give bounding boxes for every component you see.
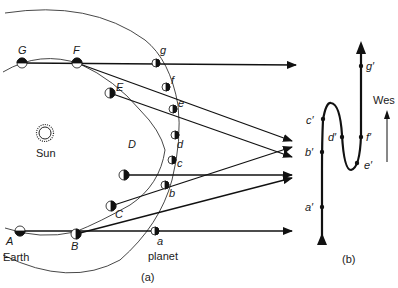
sun-label: Sun <box>36 147 56 159</box>
planet-label-e: e <box>178 97 184 109</box>
earth-label-C: C <box>115 208 123 220</box>
west-arrow-head-icon <box>384 110 390 119</box>
apparent-path <box>322 52 361 240</box>
planet-label-b: b <box>169 187 175 199</box>
earth-label-G: G <box>18 44 27 56</box>
projected-label-b: b′ <box>305 146 314 158</box>
planet-label: planet <box>148 250 178 262</box>
path-end-arrow-icon <box>356 41 366 54</box>
direction-label: Wes <box>373 94 395 106</box>
projected-label-f: f′ <box>366 131 372 143</box>
earth-label: Earth <box>3 251 29 263</box>
caption-a: (a) <box>141 271 154 283</box>
retrograde-motion-diagram: Sun A B C <box>0 0 398 288</box>
earth-label-E: E <box>116 81 124 93</box>
planet-label-a: a <box>157 235 163 247</box>
earth-label-D: D <box>128 138 136 150</box>
earth-orbit <box>3 59 165 236</box>
panel-b: a′ b′ c′ d′ e′ f′ g′ Wes (b) <box>305 41 395 265</box>
earth-label-F: F <box>73 44 81 56</box>
sight-line-c <box>111 147 292 206</box>
sight-line-f <box>77 63 292 141</box>
projected-label-d: d′ <box>328 131 337 143</box>
earth-label-A: A <box>5 235 13 247</box>
path-start-arrow-icon <box>317 233 327 245</box>
sun-icon <box>37 125 54 142</box>
projected-label-g: g′ <box>366 60 375 72</box>
planet-label-c: c <box>177 157 183 169</box>
projected-label-e: e′ <box>364 159 373 171</box>
sight-line-e <box>110 93 292 157</box>
planet-label-g: g <box>160 44 167 56</box>
projected-label-a: a′ <box>305 201 314 213</box>
earth-dots <box>15 58 129 239</box>
planet-label-d: d <box>177 138 184 150</box>
panel-a: Sun A B C <box>3 10 296 283</box>
earth-label-B: B <box>71 240 78 252</box>
caption-b: (b) <box>342 253 355 265</box>
planet-label-f: f <box>171 74 175 86</box>
projected-label-c: c′ <box>306 114 315 126</box>
projected-dots <box>320 64 363 209</box>
